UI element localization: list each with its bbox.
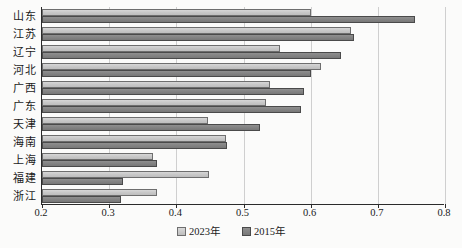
bar-2015-福建 xyxy=(42,178,123,185)
category-label-山东: 山东 xyxy=(13,10,36,22)
bar-2015-浙江 xyxy=(42,196,121,203)
category-label-天津: 天津 xyxy=(13,118,36,130)
bar-row xyxy=(42,151,444,169)
category-label-福建: 福建 xyxy=(13,172,36,184)
legend-label: 2015年 xyxy=(254,226,285,237)
category-label-海南: 海南 xyxy=(13,136,36,148)
bar-2015-海南 xyxy=(42,142,227,149)
bar-2023-广西 xyxy=(42,81,270,88)
x-axis-tick-labels: 0.20.30.40.50.60.70.8 xyxy=(0,206,462,222)
bar-2015-天津 xyxy=(42,124,260,131)
bar-row xyxy=(42,61,444,79)
plot-area xyxy=(41,7,444,205)
chart-legend: 2023年2015年 xyxy=(0,226,462,237)
x-tick-label: 0.3 xyxy=(102,206,115,220)
bar-row xyxy=(42,7,444,25)
bar-2015-河北 xyxy=(42,70,311,77)
bar-2015-广东 xyxy=(42,106,301,113)
gridline xyxy=(445,7,446,204)
bar-2023-山东 xyxy=(42,9,311,16)
bar-2023-江苏 xyxy=(42,27,351,34)
bar-row xyxy=(42,115,444,133)
bar-2023-浙江 xyxy=(42,189,157,196)
x-tick-label: 0.5 xyxy=(236,206,249,220)
bar-row xyxy=(42,187,444,205)
bar-rows xyxy=(42,7,444,204)
bar-row xyxy=(42,43,444,61)
x-tick-label: 0.7 xyxy=(370,206,383,220)
x-tick-label: 0.6 xyxy=(303,206,316,220)
legend-label: 2023年 xyxy=(189,226,220,237)
legend-swatch-icon xyxy=(242,227,251,236)
bar-2015-江苏 xyxy=(42,34,354,41)
legend-swatch-icon xyxy=(177,227,186,236)
category-label-广东: 广东 xyxy=(13,100,36,112)
horizontal-bar-chart: 山东江苏辽宁河北广西广东天津海南上海福建浙江 0.20.30.40.50.60.… xyxy=(0,0,462,248)
category-label-河北: 河北 xyxy=(13,64,36,76)
bar-2023-福建 xyxy=(42,171,209,178)
category-axis-labels: 山东江苏辽宁河北广西广东天津海南上海福建浙江 xyxy=(0,7,39,205)
bar-2023-河北 xyxy=(42,63,321,70)
bar-row xyxy=(42,25,444,43)
bar-2023-广东 xyxy=(42,99,266,106)
bar-2023-海南 xyxy=(42,135,226,142)
bar-2023-上海 xyxy=(42,153,153,160)
bar-2023-辽宁 xyxy=(42,45,280,52)
x-tick-label: 0.4 xyxy=(169,206,182,220)
x-tick-label: 0.8 xyxy=(437,206,450,220)
category-label-浙江: 浙江 xyxy=(13,190,36,202)
bar-2015-广西 xyxy=(42,88,304,95)
category-label-辽宁: 辽宁 xyxy=(13,46,36,58)
bar-row xyxy=(42,97,444,115)
category-label-上海: 上海 xyxy=(13,154,36,166)
bar-2023-天津 xyxy=(42,117,208,124)
bar-2015-上海 xyxy=(42,160,157,167)
bar-row xyxy=(42,79,444,97)
category-label-江苏: 江苏 xyxy=(13,28,36,40)
legend-item-2023[interactable]: 2023年 xyxy=(177,226,220,237)
bar-2015-辽宁 xyxy=(42,52,341,59)
bar-2015-山东 xyxy=(42,16,415,23)
category-label-广西: 广西 xyxy=(13,82,36,94)
legend-item-2015[interactable]: 2015年 xyxy=(242,226,285,237)
bar-row xyxy=(42,169,444,187)
bar-row xyxy=(42,133,444,151)
x-tick-label: 0.2 xyxy=(34,206,47,220)
